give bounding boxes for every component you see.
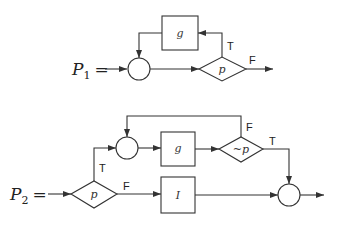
p2-loop-false-label: F bbox=[246, 121, 253, 133]
p1-edge-true-to-box bbox=[198, 33, 222, 57]
p1-true-label: T bbox=[227, 40, 234, 52]
diagram-p2: P2= p T F g ~p F T I bbox=[9, 116, 324, 213]
p2-edge-loop-true-to-exit bbox=[263, 149, 289, 184]
p1-edge-box-to-join bbox=[139, 33, 162, 58]
p2-loop-true-label: T bbox=[269, 135, 276, 147]
p2-entry-decision-label: p bbox=[90, 188, 97, 201]
p2-loop-box-label: g bbox=[174, 142, 181, 155]
p1-false-label: F bbox=[249, 54, 256, 66]
p1-decision-label: p bbox=[218, 63, 225, 76]
flowchart-canvas: P1= g p T F P2= p T bbox=[0, 0, 341, 238]
diagram-p1: P1= g p T F bbox=[71, 16, 273, 82]
p2-exit-join-node bbox=[278, 184, 300, 206]
p2-else-box-label: I bbox=[175, 189, 181, 202]
p1-join-node bbox=[128, 58, 150, 80]
p2-entry-false-label: F bbox=[123, 180, 130, 192]
p2-entry-true-label: T bbox=[99, 162, 106, 174]
p2-symbol: P2= bbox=[9, 184, 47, 207]
p2-loop-decision-label: ~p bbox=[233, 143, 249, 156]
p2-loop-join-node bbox=[116, 137, 138, 159]
p1-box-label: g bbox=[176, 27, 183, 40]
p1-symbol: P1= bbox=[71, 59, 109, 82]
